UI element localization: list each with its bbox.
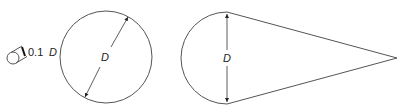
- teardrop-diameter-label: D: [223, 52, 231, 64]
- small-cylinder-number: 0.1: [28, 46, 43, 58]
- small-cylinder: [7, 46, 27, 64]
- circle-diameter-label: D: [101, 51, 109, 63]
- circle-diameter-arrow-lower: [85, 67, 100, 97]
- teardrop-shape: [181, 12, 397, 104]
- diagram-canvas: 0.1 D D D: [0, 0, 409, 112]
- small-cylinder-var: D: [49, 46, 57, 58]
- circle-diameter-arrow-upper: [111, 17, 128, 47]
